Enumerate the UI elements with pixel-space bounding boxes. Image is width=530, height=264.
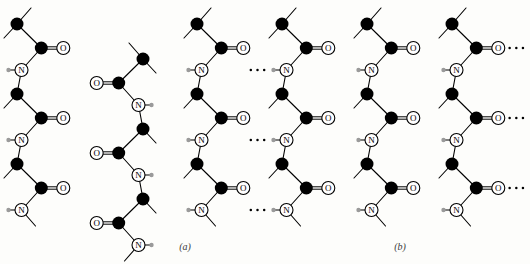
- oxygen-symbol: O: [60, 113, 67, 123]
- carbon-atom: [385, 42, 398, 55]
- hydrogen-bond-dot: [515, 117, 518, 120]
- hydrogen-bond-dot: [515, 187, 518, 190]
- hydrogen-atom: [186, 68, 190, 72]
- hydrogen-atom: [271, 68, 275, 72]
- carbon-atom: [385, 182, 398, 195]
- nitrogen-atom: N: [450, 64, 463, 77]
- hydrogen-atom: [271, 138, 275, 142]
- figure-background: [0, 0, 530, 264]
- nitrogen-symbol: N: [18, 65, 25, 75]
- nitrogen-atom: N: [365, 64, 378, 77]
- hydrogen-bond-dot: [256, 139, 259, 142]
- nitrogen-symbol: N: [135, 240, 142, 250]
- oxygen-symbol: O: [60, 43, 67, 53]
- nitrogen-symbol: N: [283, 65, 290, 75]
- hydrogen-atom: [441, 68, 445, 72]
- hydrogen-bond-dot: [508, 47, 511, 50]
- hydrogen-bond-dot: [508, 117, 511, 120]
- hydrogen-atom: [356, 138, 360, 142]
- nitrogen-atom: N: [280, 204, 293, 217]
- oxygen-symbol: O: [410, 183, 417, 193]
- hydrogen-atom: [6, 68, 10, 72]
- nitrogen-symbol: N: [283, 135, 290, 145]
- hydrogen-bond-dot: [263, 69, 266, 72]
- oxygen-atom: O: [237, 42, 250, 55]
- hydrogen-atom: [6, 208, 10, 212]
- hydrogen-atom: [6, 138, 10, 142]
- hydrogen-atom: [356, 68, 360, 72]
- carbon-atom: [300, 112, 313, 125]
- nitrogen-atom: N: [195, 64, 208, 77]
- oxygen-symbol: O: [93, 218, 100, 228]
- carbon-atom: [35, 182, 48, 195]
- oxygen-symbol: O: [325, 113, 332, 123]
- oxygen-atom: O: [492, 112, 505, 125]
- hydrogen-atom: [186, 138, 190, 142]
- beta-sheet-svg: ONONONONONONONONON ONONONONONONONONON (a…: [0, 0, 530, 264]
- hydrogen-bond-dot: [522, 47, 525, 50]
- oxygen-symbol: O: [495, 183, 502, 193]
- nitrogen-atom: N: [132, 169, 145, 182]
- carbon-atom: [112, 147, 125, 160]
- oxygen-atom: O: [407, 112, 420, 125]
- nitrogen-atom: N: [280, 64, 293, 77]
- oxygen-symbol: O: [240, 183, 247, 193]
- carbon-atom: [385, 112, 398, 125]
- oxygen-atom: O: [237, 112, 250, 125]
- oxygen-atom: O: [90, 147, 103, 160]
- nitrogen-atom: N: [195, 204, 208, 217]
- oxygen-atom: O: [407, 182, 420, 195]
- hydrogen-bond-dot: [263, 209, 266, 212]
- carbon-atom: [215, 112, 228, 125]
- oxygen-symbol: O: [240, 113, 247, 123]
- nitrogen-atom: N: [450, 204, 463, 217]
- oxygen-symbol: O: [325, 183, 332, 193]
- nitrogen-symbol: N: [18, 135, 25, 145]
- hydrogen-bond-dot: [522, 117, 525, 120]
- oxygen-atom: O: [57, 112, 70, 125]
- nitrogen-symbol: N: [135, 170, 142, 180]
- oxygen-symbol: O: [325, 43, 332, 53]
- nitrogen-atom: N: [365, 134, 378, 147]
- carbon-atom: [470, 182, 483, 195]
- nitrogen-atom: N: [365, 204, 378, 217]
- panel-b-label: (b): [394, 241, 406, 253]
- carbon-atom: [470, 112, 483, 125]
- oxygen-symbol: O: [410, 43, 417, 53]
- hydrogen-atom: [149, 103, 153, 107]
- hydrogen-atom: [441, 138, 445, 142]
- oxygen-atom: O: [90, 217, 103, 230]
- carbon-atom: [470, 42, 483, 55]
- hydrogen-bond-dot: [250, 69, 253, 72]
- nitrogen-atom: N: [132, 99, 145, 112]
- carbon-atom: [215, 42, 228, 55]
- panel-a-label: (a): [179, 241, 191, 253]
- nitrogen-atom: N: [132, 239, 145, 252]
- nitrogen-symbol: N: [453, 135, 460, 145]
- oxygen-atom: O: [57, 42, 70, 55]
- hydrogen-atom: [149, 173, 153, 177]
- nitrogen-symbol: N: [198, 205, 205, 215]
- hydrogen-bond-dot: [263, 139, 266, 142]
- oxygen-symbol: O: [93, 148, 100, 158]
- hydrogen-atom: [186, 208, 190, 212]
- carbon-atom: [112, 77, 125, 90]
- nitrogen-symbol: N: [368, 135, 375, 145]
- oxygen-symbol: O: [240, 43, 247, 53]
- hydrogen-bond-dot: [515, 47, 518, 50]
- carbon-atom: [35, 112, 48, 125]
- carbon-atom: [300, 42, 313, 55]
- carbon-atom: [112, 217, 125, 230]
- oxygen-symbol: O: [93, 78, 100, 88]
- nitrogen-symbol: N: [18, 205, 25, 215]
- hydrogen-bond-dot: [522, 187, 525, 190]
- oxygen-atom: O: [322, 42, 335, 55]
- hydrogen-atom: [356, 208, 360, 212]
- carbon-atom: [215, 182, 228, 195]
- nitrogen-atom: N: [195, 134, 208, 147]
- nitrogen-atom: N: [15, 204, 28, 217]
- oxygen-atom: O: [57, 182, 70, 195]
- hydrogen-bond-dot: [256, 209, 259, 212]
- hydrogen-atom: [271, 208, 275, 212]
- hydrogen-bond-dot: [250, 139, 253, 142]
